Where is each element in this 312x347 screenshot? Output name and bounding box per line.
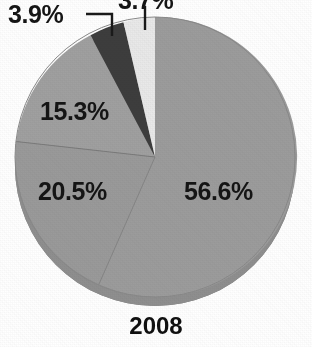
chart-title: 2008 bbox=[0, 314, 312, 338]
pie-chart-figure: 3.9% 3.7% 15.3% 20.5% 56.6% 2008 bbox=[0, 0, 312, 347]
slice-label-3-7: 3.7% bbox=[118, 0, 173, 13]
slice-label-20-5: 20.5% bbox=[38, 179, 107, 204]
slice-label-15-3: 15.3% bbox=[40, 99, 109, 124]
slice-label-3-9: 3.9% bbox=[8, 2, 63, 27]
pie-chart-graphic bbox=[0, 0, 312, 347]
slice-label-56-6: 56.6% bbox=[184, 179, 253, 204]
